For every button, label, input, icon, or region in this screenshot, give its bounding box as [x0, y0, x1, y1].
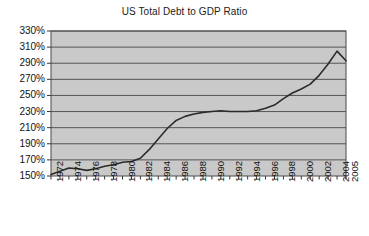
- x-axis-tick-label: 2002: [323, 161, 333, 182]
- x-axis-tick-label: 1994: [252, 161, 262, 182]
- x-axis-tick-label: 1978: [109, 161, 119, 182]
- chart-container: US Total Debt to GDP Ratio 330%310%290%2…: [0, 0, 369, 236]
- y-axis-tick-label: 190%: [19, 139, 45, 149]
- y-axis-ticks: [47, 31, 51, 176]
- x-axis-tick-label: 1980: [127, 161, 137, 182]
- x-axis-tick-label: 1998: [287, 161, 297, 182]
- y-axis-tick-label: 230%: [19, 107, 45, 117]
- y-axis-tick-label: 150%: [19, 171, 45, 181]
- x-axis-tick-label: 1990: [216, 161, 226, 182]
- y-axis-tick-label: 170%: [19, 155, 45, 165]
- x-axis-tick-label: 1996: [270, 161, 280, 182]
- plot-area: [0, 0, 369, 236]
- plot-background: [51, 31, 346, 176]
- x-axis-tick-label: 1982: [144, 161, 154, 182]
- x-axis-tick-label: 1976: [91, 161, 101, 182]
- x-axis-tick-label: 1988: [198, 161, 208, 182]
- x-axis-tick-label: 2005: [350, 161, 360, 182]
- x-axis-tick-label: 1984: [162, 161, 172, 182]
- y-axis-tick-label: 270%: [19, 74, 45, 84]
- x-axis-tick-label: 1992: [234, 161, 244, 182]
- x-axis-tick-label: 2000: [305, 161, 315, 182]
- x-axis-tick-label: 1986: [180, 161, 190, 182]
- y-axis-tick-label: 310%: [19, 42, 45, 52]
- x-axis-tick-label: 1974: [73, 161, 83, 182]
- y-axis-tick-label: 290%: [19, 58, 45, 68]
- y-axis-tick-label: 250%: [19, 90, 45, 100]
- y-axis-tick-label: 210%: [19, 123, 45, 133]
- x-axis-tick-label: 1972: [55, 161, 65, 182]
- y-axis-tick-label: 330%: [19, 26, 45, 36]
